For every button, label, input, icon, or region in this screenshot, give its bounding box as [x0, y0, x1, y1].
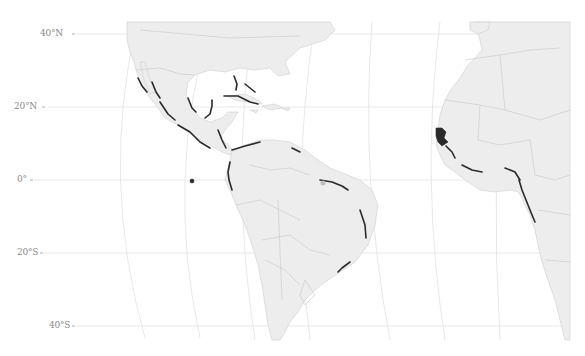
lat-label-40s: 40°S — [49, 320, 70, 330]
landmass-africa-europe — [436, 22, 570, 340]
landmass-north-america — [127, 22, 335, 155]
lat-label-20s: 20°S — [17, 247, 38, 257]
lat-label-0: 0° — [17, 174, 27, 184]
lat-label-40n: 40°N — [40, 28, 63, 38]
map-canvas[interactable] — [0, 0, 585, 356]
landmass-south-america — [225, 140, 378, 340]
lat-label-20n: 20°N — [14, 101, 37, 111]
caribbean-islands — [228, 94, 290, 113]
